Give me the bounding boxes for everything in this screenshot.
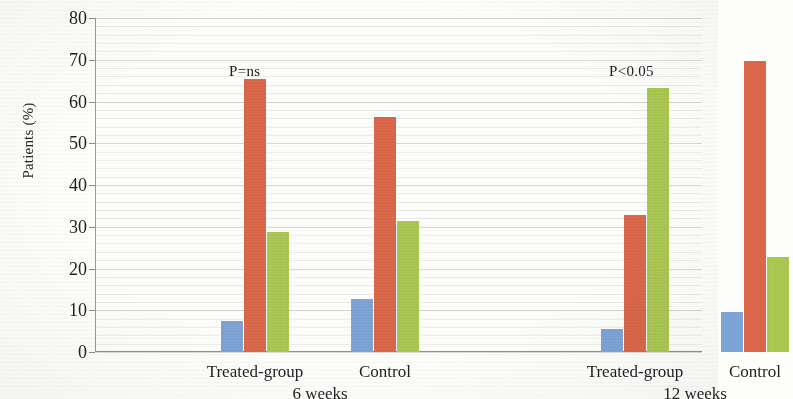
bar	[744, 61, 766, 352]
gridline	[95, 185, 702, 186]
gridline-minor	[95, 202, 702, 203]
y-axis-tick-label: 30	[41, 218, 87, 236]
y-axis-line	[95, 18, 96, 352]
y-axis-tick-label: 10	[41, 301, 87, 319]
bar	[267, 232, 289, 352]
y-axis-tick-label: 50	[41, 134, 87, 152]
bar	[647, 88, 669, 352]
y-axis-tick-label: 0	[41, 343, 87, 361]
y-axis-tick-label: 40	[41, 176, 87, 194]
p-value-label: P<0.05	[609, 63, 654, 80]
bar	[221, 321, 243, 352]
y-axis-tick-label: 70	[41, 51, 87, 69]
y-axis-tick	[89, 310, 95, 311]
gridline-minor	[95, 127, 702, 128]
bar	[374, 117, 396, 352]
gridline-minor	[95, 26, 702, 27]
gridline-minor	[95, 218, 702, 219]
gridline	[95, 143, 702, 144]
bar	[351, 299, 373, 352]
y-axis-tick	[89, 60, 95, 61]
bar	[721, 312, 743, 352]
y-axis-tick-label: 80	[41, 9, 87, 27]
plot-area: P=nsP<0.05	[95, 18, 702, 352]
gridline-minor	[95, 51, 702, 52]
bar	[601, 329, 623, 352]
x-axis-group-label: 6 weeks	[220, 384, 420, 399]
p-value-label: P=ns	[229, 63, 260, 80]
gridline-minor	[95, 118, 702, 119]
gridline-minor	[95, 210, 702, 211]
gridline-minor	[95, 160, 702, 161]
gridline	[95, 18, 702, 19]
y-axis-tick	[89, 227, 95, 228]
gridline-minor	[95, 152, 702, 153]
gridline-minor	[95, 85, 702, 86]
gridline-minor	[95, 177, 702, 178]
gridline-minor	[95, 168, 702, 169]
y-axis-tick	[89, 102, 95, 103]
x-axis-category-label: Control	[655, 362, 793, 382]
gridline-minor	[95, 110, 702, 111]
gridline	[95, 60, 702, 61]
y-axis-title: Patients (%)	[20, 61, 37, 221]
y-axis-tick	[89, 143, 95, 144]
y-axis-tick	[89, 352, 95, 353]
x-axis-group-label: 12 weeks	[595, 384, 793, 399]
gridline	[95, 102, 702, 103]
bar	[244, 79, 266, 352]
gridline-minor	[95, 135, 702, 136]
y-axis-tick-label: 20	[41, 260, 87, 278]
bar	[767, 257, 789, 352]
gridline	[95, 352, 702, 353]
y-axis-tick	[89, 18, 95, 19]
x-axis-category-label: Control	[285, 362, 485, 382]
bar	[397, 221, 419, 352]
gridline-minor	[95, 43, 702, 44]
gridline-minor	[95, 193, 702, 194]
y-axis-tick-label: 60	[41, 93, 87, 111]
gridline-minor	[95, 93, 702, 94]
gridline-minor	[95, 35, 702, 36]
y-axis-tick	[89, 185, 95, 186]
bar	[624, 215, 646, 352]
y-axis-tick	[89, 269, 95, 270]
